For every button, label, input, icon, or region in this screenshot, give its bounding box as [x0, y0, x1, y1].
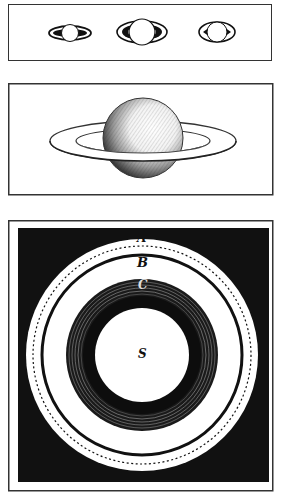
ring-c-label: C	[138, 278, 148, 292]
ring-b-label: B	[137, 255, 148, 270]
phase-open-icon	[117, 19, 167, 45]
ring-a-label: A	[137, 231, 146, 245]
planet-s-label: S	[138, 347, 147, 361]
phase-small-icon	[49, 25, 91, 42]
saturn-engraving	[50, 98, 236, 178]
diagram-canvas	[0, 0, 281, 496]
phase-tilted-icon	[199, 22, 235, 42]
